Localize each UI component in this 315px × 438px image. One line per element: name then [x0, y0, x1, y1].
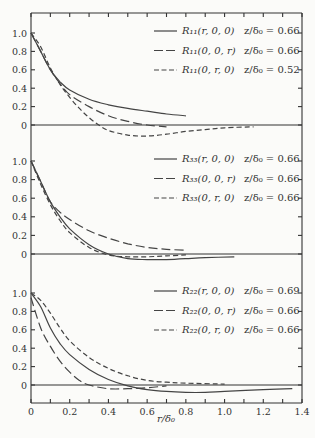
y-tick-label: 0.8: [12, 46, 27, 57]
legend: R₃₃(r, 0, 0)z/δ₀ = 0.66R₃₃(0, 0, r)z/δ₀ …: [154, 153, 300, 203]
legend-condition: z/δ₀ = 0.69: [244, 285, 300, 296]
y-tick-label: 0.2: [12, 101, 27, 112]
y-tick-label: 0.6: [12, 324, 27, 335]
legend-label: R₂₂(r, 0, 0): [181, 285, 235, 296]
x-tick-label: 0.8: [178, 406, 193, 417]
legend-label: R₁₁(r, 0, 0): [181, 25, 235, 36]
legend-label: R₁₁(0, r, 0): [181, 64, 235, 75]
y-tick-label: 0.6: [12, 193, 27, 204]
y-tick-label: 0: [21, 380, 27, 391]
y-tick-label: 0: [21, 249, 27, 260]
curve-long-dash: [31, 161, 186, 250]
panel-R22: 1.00.80.60.40.20R₂₂(r, 0, 0)z/δ₀ = 0.69R…: [12, 285, 302, 392]
legend-label: R₁₁(0, 0, r): [181, 45, 236, 56]
y-tick-label: 1.0: [12, 156, 27, 167]
legend-condition: z/δ₀ = 0.66: [244, 45, 300, 56]
correlation-figure: 1.00.80.60.40.20R₁₁(r, 0, 0)z/δ₀ = 0.66R…: [0, 0, 315, 438]
legend-condition: z/δ₀ = 0.66: [244, 153, 300, 164]
y-tick-label: 0.6: [12, 64, 27, 75]
legend-condition: z/δ₀ = 0.66: [244, 305, 300, 316]
x-tick-label: 0.6: [140, 406, 155, 417]
legend-label: R₂₂(0, 0, r): [181, 305, 236, 316]
y-tick-label: 1.0: [12, 288, 27, 299]
legend-condition: z/δ₀ = 0.66: [244, 173, 300, 184]
legend: R₂₂(r, 0, 0)z/δ₀ = 0.69R₂₂(0, 0, r)z/δ₀ …: [154, 285, 300, 335]
y-tick-label: 0.8: [12, 306, 27, 317]
curve-solid: [31, 33, 186, 116]
legend-label: R₃₃(0, 0, r): [181, 173, 236, 184]
x-tick-label: 1.0: [217, 406, 232, 417]
x-tick-label: 0: [28, 406, 34, 417]
x-tick-label: 0.2: [62, 406, 77, 417]
x-tick-label: 1.2: [256, 406, 271, 417]
y-tick-label: 0.2: [12, 230, 27, 241]
y-tick-label: 0.4: [12, 343, 27, 354]
panel-R33: 1.00.80.60.40.20R₃₃(r, 0, 0)z/δ₀ = 0.66R…: [12, 153, 302, 260]
panel-R11: 1.00.80.60.40.20R₁₁(r, 0, 0)z/δ₀ = 0.66R…: [12, 25, 302, 136]
y-tick-label: 1.0: [12, 28, 27, 39]
legend-condition: z/δ₀ = 0.66: [244, 324, 300, 335]
panels: 1.00.80.60.40.20R₁₁(r, 0, 0)z/δ₀ = 0.66R…: [12, 25, 302, 392]
curve-long-dash: [31, 33, 167, 127]
legend-condition: z/δ₀ = 0.52: [244, 64, 300, 75]
legend-condition: z/δ₀ = 0.66: [244, 192, 300, 203]
legend-label: R₂₂(0, r, 0): [181, 324, 235, 335]
legend-condition: z/δ₀ = 0.66: [244, 25, 300, 36]
y-tick-label: 0.4: [12, 211, 27, 222]
y-tick-label: 0.2: [12, 361, 27, 372]
y-tick-label: 0.8: [12, 174, 27, 185]
legend: R₁₁(r, 0, 0)z/δ₀ = 0.66R₁₁(0, 0, r)z/δ₀ …: [154, 25, 300, 75]
y-tick-label: 0: [21, 120, 27, 131]
x-tick-label: 1.4: [294, 406, 309, 417]
legend-label: R₃₃(0, r, 0): [181, 192, 235, 203]
legend-label: R₃₃(r, 0, 0): [181, 153, 235, 164]
x-axis-title: r/δ₀: [157, 413, 175, 424]
x-tick-label: 0.4: [101, 406, 116, 417]
y-tick-label: 0.4: [12, 83, 27, 94]
